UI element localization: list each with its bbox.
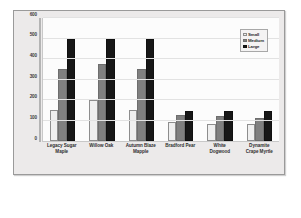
x-axis: Legacy SugarMapleWillow OakAutumn BlazeM… [42,142,279,170]
x-tick-label-line: Bradford Pear [161,143,201,149]
bar-small[interactable] [168,122,177,141]
legend-label: Medium [248,38,264,43]
x-tick-label: WhiteDogwood [200,142,240,170]
bar-large[interactable] [146,39,155,142]
x-tick-label-line: Mapple [121,149,161,155]
x-tick-label: Legacy SugarMaple [42,142,82,170]
y-axis: 0100200300400500600 [14,18,42,142]
legend-swatch-icon [243,39,247,43]
bar-group [200,18,239,141]
y-tick-label: 500 [30,32,37,37]
bar-small[interactable] [50,110,59,141]
bar-chart-widget: 0100200300400500600 Legacy SugarMapleWil… [13,10,285,175]
x-tick-label: DynamiteCrape Myrtle [240,142,280,170]
y-tick-label: 200 [30,94,37,99]
bar-large[interactable] [67,39,76,142]
bar-large[interactable] [185,111,194,141]
y-tick-label: 0 [35,135,37,140]
bar-small[interactable] [247,124,256,141]
legend-item[interactable]: Large [243,44,264,50]
legend-swatch-icon [243,45,247,49]
gridline [43,120,279,121]
gridline [43,79,279,80]
bar-group [122,18,161,141]
legend-label: Large [248,44,259,49]
bar-small[interactable] [207,124,216,141]
bar-large[interactable] [264,111,273,141]
x-tick-label-line: Dogwood [200,149,240,155]
y-tick-label: 100 [30,114,37,119]
y-tick-label: 600 [30,11,37,16]
x-tick-label: Willow Oak [82,142,122,170]
bar-medium[interactable] [98,64,107,141]
bar-large[interactable] [106,39,115,142]
bar-medium[interactable] [255,118,264,141]
x-tick-label: Bradford Pear [161,142,201,170]
legend-label: Small [248,32,259,37]
gridline [43,58,279,59]
bar-small[interactable] [129,110,138,141]
y-axis-spine [39,18,41,142]
x-tick-label-line: Willow Oak [82,143,122,149]
bar-medium[interactable] [58,69,67,141]
y-tick-label: 400 [30,52,37,57]
gridline [43,17,279,18]
bar-group [43,18,82,141]
x-tick-label-line: Crape Myrtle [240,149,280,155]
y-tick-label: 300 [30,73,37,78]
bar-medium[interactable] [137,69,146,141]
bar-group [82,18,121,141]
x-tick-label: Autumn BlazeMapple [121,142,161,170]
x-tick-label-line: Maple [42,149,82,155]
bar-large[interactable] [224,111,233,141]
legend-swatch-icon [243,33,247,37]
gridline [43,99,279,100]
chart-legend: SmallMediumLarge [240,29,268,52]
bar-small[interactable] [89,100,98,141]
bar-group [161,18,200,141]
